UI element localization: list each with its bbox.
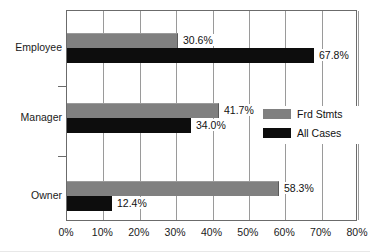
bar-value-label: 67.8% <box>318 49 350 61</box>
y-axis-tick <box>58 156 66 157</box>
chart-legend: Frd Stmts All Cases <box>263 106 359 144</box>
y-axis-category-label: Owner <box>0 189 62 201</box>
x-axis-tick-label: 10% <box>92 226 113 238</box>
x-axis-tick-label: 70% <box>310 226 331 238</box>
legend-label-frd-stmts: Frd Stmts <box>297 108 343 120</box>
bar-value-label: 41.7% <box>223 104 255 116</box>
x-axis-tick-label: 20% <box>128 226 149 238</box>
y-axis-category-label: Employee <box>0 41 62 53</box>
legend-item: Frd Stmts <box>263 106 359 121</box>
legend-label-all-cases: All Cases <box>297 127 341 139</box>
bar-value-label: 30.6% <box>182 34 214 46</box>
x-axis-tick-label: 60% <box>274 226 295 238</box>
bar-value-label: 58.3% <box>283 182 315 194</box>
bar <box>67 103 219 118</box>
bar-value-label: 12.4% <box>116 197 148 209</box>
plot-area: 30.6%67.8%41.7%34.0%58.3%12.4% Frd Stmts… <box>66 10 357 221</box>
bar <box>67 48 314 63</box>
y-axis-tick <box>58 86 66 87</box>
x-axis-tick-label: 0% <box>58 226 73 238</box>
bar-value-label: 34.0% <box>195 119 227 131</box>
bar <box>67 181 279 196</box>
legend-swatch-all-cases-icon <box>263 128 291 138</box>
x-axis-tick-label: 50% <box>237 226 258 238</box>
bar <box>67 118 191 133</box>
y-axis-category-label: Manager <box>0 111 62 123</box>
legend-item: All Cases <box>263 125 359 140</box>
x-axis-tick-label: 40% <box>201 226 222 238</box>
bar-chart: 30.6%67.8%41.7%34.0%58.3%12.4% Frd Stmts… <box>0 0 370 252</box>
x-axis-tick-label: 30% <box>165 226 186 238</box>
bar <box>67 33 178 48</box>
legend-swatch-frd-stmts-icon <box>263 109 291 119</box>
x-axis-tick-label: 80% <box>346 226 367 238</box>
bar <box>67 196 112 211</box>
